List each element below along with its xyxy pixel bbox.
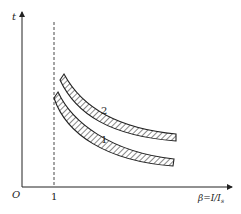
curve-1-label: 1 <box>101 134 107 145</box>
curve-2-label: 2 <box>101 105 107 116</box>
y-axis-label: t <box>12 11 17 22</box>
time-current-diagram: t O 1 2 1 β=I/Is <box>0 0 241 214</box>
x-axis-label: β=I/Is <box>197 193 224 204</box>
x-tick-1: 1 <box>51 191 57 202</box>
curve-1-band <box>54 92 174 166</box>
origin-label: O <box>12 189 20 200</box>
